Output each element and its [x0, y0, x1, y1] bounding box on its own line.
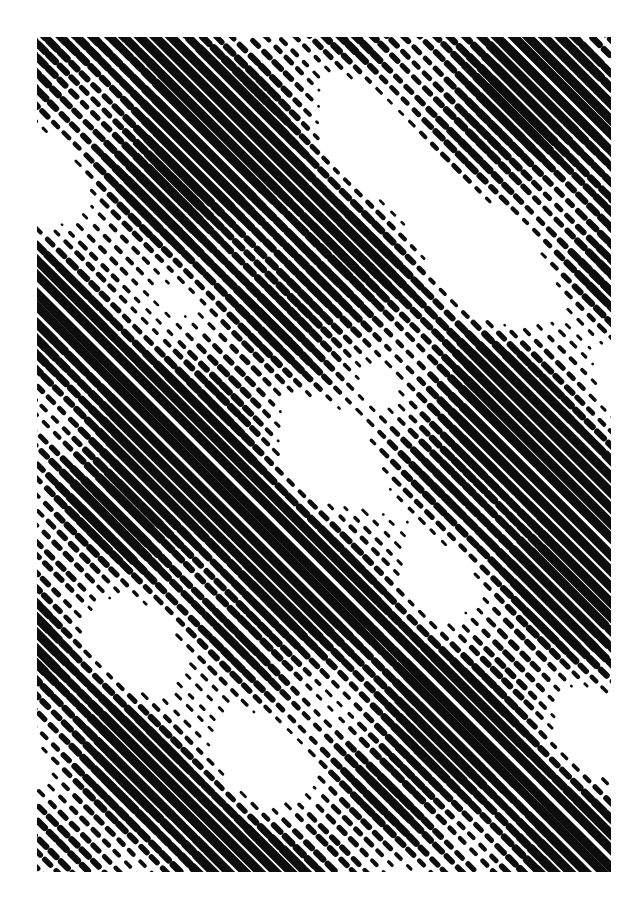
- artwork-page: [0, 0, 639, 904]
- halftone-line-screen-image: [37, 37, 611, 872]
- artwork-frame: [37, 37, 611, 872]
